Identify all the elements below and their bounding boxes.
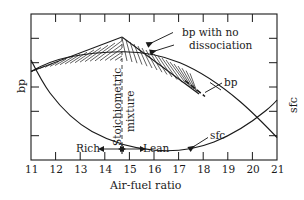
xtick-label-12: 12 [50,164,63,175]
xtick-label-20: 20 [246,164,259,175]
xaxis-title: Air-fuel ratio [110,180,182,191]
yaxis-right-label: sfc [288,97,299,113]
annotation-mixture: mixture [125,91,136,132]
bp-label-leader [205,83,222,93]
annotation-bp: bp [224,77,237,88]
xtick-label-14: 14 [99,164,112,175]
sfc-label-leader [189,138,208,150]
plot-frame [31,14,277,160]
annotation-rich: Rich [76,143,100,154]
annotation-sfc: sfc [210,130,225,141]
annotation-lean: Lean [143,143,169,154]
annotation-stoichiometric: Stoichiometric [112,68,123,146]
xtick-label-19: 19 [222,164,235,175]
annotation-bp-no-dissociation-line2: dissociation [189,40,252,51]
annotation-bp-no-dissociation-line1: bp with no [182,27,239,38]
xtick-label-17: 17 [173,164,186,175]
chart-figure: 11 12 13 14 15 16 17 18 19 20 21 Air-fue… [0,0,304,200]
right-axis-ticks [269,38,277,135]
xtick-label-18: 18 [197,164,210,175]
sfc-curve [31,60,277,151]
xtick-label-15: 15 [123,164,136,175]
xtick-label-11: 11 [25,164,38,175]
top-axis-ticks [56,14,253,22]
bp-no-dissociation-leader [147,33,174,53]
xtick-label-13: 13 [74,164,87,175]
xtick-label-21: 21 [271,164,284,175]
left-axis-ticks [31,38,39,135]
xtick-label-16: 16 [148,164,161,175]
yaxis-left-label: bp [16,79,27,93]
